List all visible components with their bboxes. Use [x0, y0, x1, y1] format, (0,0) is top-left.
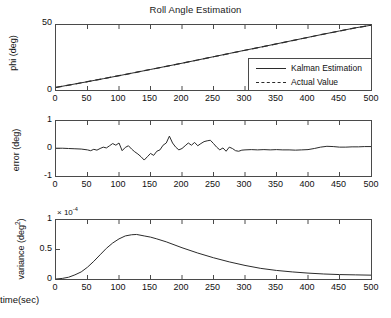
subplot3-ylabel-exponent: 2	[14, 221, 21, 225]
subplot3-xtick-50: 50	[77, 282, 97, 292]
subplot2-xtick-0: 0	[45, 179, 65, 189]
subplot1-xtick-150: 150	[140, 93, 160, 103]
subplot2-xtick-350: 350	[266, 179, 286, 189]
subplot3-xtick-200: 200	[171, 282, 191, 292]
legend-swatch-solid	[256, 68, 286, 69]
subplot1-xtick-0: 0	[45, 93, 65, 103]
subplot3-plot-area	[56, 220, 371, 279]
subplot2-bottom-ticks	[56, 170, 371, 176]
subplot2-plot-area	[56, 121, 371, 176]
subplot1-xtick-500: 500	[360, 93, 382, 103]
subplot2-xtick-400: 400	[297, 179, 317, 189]
legend: Kalman Estimation Actual Value	[248, 58, 372, 91]
subplot3-multiplier-exponent: -4	[73, 206, 78, 212]
subplot2-ylabel: error (deg)	[11, 119, 21, 181]
subplot3-ylabel-tail: )	[16, 218, 26, 221]
legend-entry-kalman: Kalman Estimation	[256, 63, 362, 73]
figure-canvas: Roll Angle Estimation phi (deg) 50 0	[0, 0, 391, 318]
error-line	[56, 136, 371, 160]
subplot1-top-ticks	[56, 25, 371, 31]
subplot2-xtick-100: 100	[108, 179, 128, 189]
subplot2-axes	[55, 120, 372, 177]
subplot3-xtick-450: 450	[329, 282, 349, 292]
subplot3-xtick-150: 150	[140, 282, 160, 292]
subplot3-left-ticks	[56, 220, 62, 279]
subplot3-xtick-100: 100	[108, 282, 128, 292]
subplot1-ylabel: phi (deg)	[8, 22, 18, 84]
subplot3-multiplier-base: × 10	[57, 208, 73, 217]
subplot2-top-ticks	[56, 121, 371, 127]
subplot3-xtick-350: 350	[266, 282, 286, 292]
subplot1-xtick-400: 400	[297, 93, 317, 103]
subplot2-xtick-450: 450	[329, 179, 349, 189]
subplot2-xtick-250: 250	[203, 179, 223, 189]
subplot3-xtick-300: 300	[234, 282, 254, 292]
subplot3-xtick-250: 250	[203, 282, 223, 292]
legend-label-actual: Actual Value	[291, 77, 338, 87]
subplot2-xtick-50: 50	[77, 179, 97, 189]
subplot3-ytick-0p5: 0.5	[24, 243, 52, 253]
subplot3-axis-multiplier: × 10-4	[57, 206, 78, 217]
legend-swatch-dashed	[256, 82, 286, 83]
subplot3-axes	[55, 219, 372, 280]
legend-entry-actual: Actual Value	[256, 77, 338, 87]
subplot1-xtick-450: 450	[329, 93, 349, 103]
subplot1-ytick-50: 50	[32, 17, 52, 27]
subplot3-xtick-0: 0	[45, 282, 65, 292]
subplot3-ytick-1: 1	[32, 213, 52, 223]
subplot2-xtick-150: 150	[140, 179, 160, 189]
subplot2-left-ticks	[56, 121, 62, 176]
subplot2-ytick-1: 1	[32, 114, 52, 124]
subplot3-top-ticks	[56, 220, 371, 226]
subplot1-xtick-250: 250	[203, 93, 223, 103]
subplot3-xtick-500: 500	[360, 282, 382, 292]
subplot2-xtick-300: 300	[234, 179, 254, 189]
subplot2-xtick-500: 500	[360, 179, 382, 189]
legend-label-kalman: Kalman Estimation	[291, 63, 362, 73]
subplot2-xtick-200: 200	[171, 179, 191, 189]
subplot3-bottom-ticks	[56, 273, 371, 279]
subplot2-ytick-0: 0	[32, 142, 52, 152]
page-title: Roll Angle Estimation	[0, 4, 391, 15]
subplot1-xtick-100: 100	[108, 93, 128, 103]
subplot1-xtick-50: 50	[77, 93, 97, 103]
subplot1-xtick-350: 350	[266, 93, 286, 103]
subplot1-xtick-300: 300	[234, 93, 254, 103]
subplot3-xtick-400: 400	[297, 282, 317, 292]
subplot1-xtick-200: 200	[171, 93, 191, 103]
